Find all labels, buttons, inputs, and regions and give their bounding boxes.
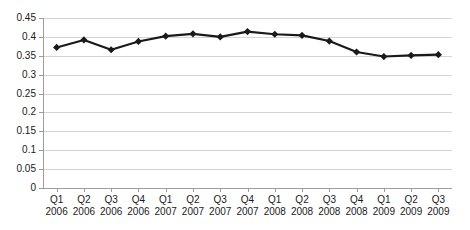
data-point-marker <box>380 53 387 60</box>
series-line <box>57 32 439 57</box>
data-point-marker <box>435 51 442 58</box>
data-point-marker <box>53 44 60 51</box>
data-point-marker <box>408 52 415 59</box>
data-point-marker <box>162 33 169 40</box>
data-point-marker <box>298 32 305 39</box>
data-point-marker <box>189 30 196 37</box>
data-point-marker <box>217 33 224 40</box>
data-point-marker <box>135 38 142 45</box>
data-point-marker <box>271 31 278 38</box>
data-point-marker <box>108 46 115 53</box>
line-chart: 00.050.10.150.20.250.30.350.40.45 Q12006… <box>0 0 470 230</box>
data-point-marker <box>353 48 360 55</box>
series-markers <box>53 28 442 60</box>
data-point-marker <box>244 28 251 35</box>
data-series <box>0 0 470 230</box>
data-point-marker <box>326 37 333 44</box>
data-point-marker <box>80 36 87 43</box>
